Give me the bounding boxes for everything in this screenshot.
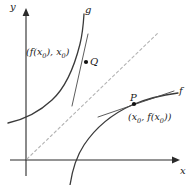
y-axis-label: y — [10, 2, 16, 12]
point-p-label: P — [130, 93, 137, 103]
point-q-marker — [84, 60, 88, 64]
curve-f-label: f — [179, 86, 183, 96]
point-q-coordinate-label: (f(x0), x0) — [26, 47, 69, 59]
curve-g — [8, 14, 84, 123]
inverse-function-figure: y x g f Q P (f(x0), x0) (x0, f(x0)) — [0, 0, 192, 185]
x-axis — [10, 157, 180, 164]
point-p-coordinate-label: (x0, f(x0)) — [128, 112, 171, 124]
y-axis — [23, 8, 30, 176]
curve-g-label: g — [85, 5, 91, 15]
figure-canvas — [0, 0, 192, 185]
curve-f — [70, 93, 178, 185]
point-q-label: Q — [90, 57, 98, 67]
x-axis-label: x — [180, 166, 186, 176]
